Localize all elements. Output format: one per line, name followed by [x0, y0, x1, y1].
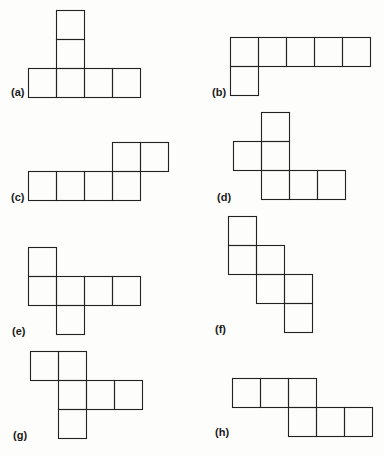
net-square: [317, 408, 345, 437]
net-square: [115, 381, 143, 410]
net-label-e: (e): [12, 325, 25, 337]
net-square: [234, 142, 262, 171]
net-label-d: (d): [217, 191, 231, 203]
net-square: [29, 248, 57, 277]
net-c: [29, 143, 169, 201]
net-square: [259, 38, 287, 67]
net-square: [57, 69, 85, 98]
cube-nets-diagram: [0, 0, 384, 456]
net-b: [231, 38, 371, 96]
net-square: [318, 171, 346, 200]
net-square: [285, 275, 313, 304]
net-square: [257, 246, 285, 275]
net-square: [345, 408, 373, 437]
net-square: [57, 11, 85, 40]
net-square: [343, 38, 371, 67]
net-square: [85, 172, 113, 201]
net-square: [113, 277, 141, 306]
net-label-f: (f): [215, 323, 226, 335]
net-square: [229, 246, 257, 275]
net-square: [59, 410, 87, 439]
net-square: [289, 379, 317, 408]
net-label-b: (b): [212, 86, 226, 98]
net-square: [257, 275, 285, 304]
net-square: [57, 306, 85, 335]
net-square: [29, 172, 57, 201]
net-square: [57, 277, 85, 306]
net-square: [141, 143, 169, 172]
net-square: [262, 113, 290, 142]
net-square: [262, 171, 290, 200]
net-square: [29, 277, 57, 306]
net-square: [113, 172, 141, 201]
net-square: [85, 69, 113, 98]
net-square: [290, 171, 318, 200]
net-square: [262, 142, 290, 171]
net-f: [229, 217, 313, 333]
net-square: [31, 352, 59, 381]
net-label-a: (a): [11, 86, 24, 98]
net-square: [233, 379, 261, 408]
net-square: [57, 172, 85, 201]
net-square: [29, 69, 57, 98]
net-label-h: (h): [215, 426, 229, 438]
net-d: [234, 113, 346, 200]
net-square: [113, 69, 141, 98]
net-square: [57, 40, 85, 69]
net-label-c: (c): [11, 191, 24, 203]
net-square: [315, 38, 343, 67]
net-square: [87, 381, 115, 410]
net-square: [285, 304, 313, 333]
net-e: [29, 248, 141, 335]
net-g: [31, 352, 143, 439]
net-a: [29, 11, 141, 98]
net-square: [261, 379, 289, 408]
net-square: [289, 408, 317, 437]
net-square: [85, 277, 113, 306]
net-h: [233, 379, 373, 437]
net-square: [229, 217, 257, 246]
net-square: [113, 143, 141, 172]
net-square: [231, 38, 259, 67]
net-square: [231, 67, 259, 96]
net-label-g: (g): [13, 429, 27, 441]
net-square: [287, 38, 315, 67]
net-square: [59, 381, 87, 410]
net-square: [59, 352, 87, 381]
